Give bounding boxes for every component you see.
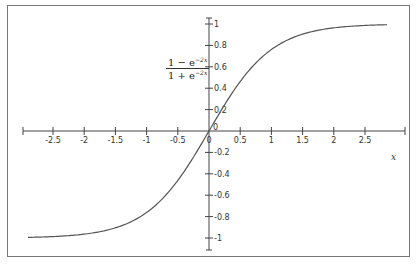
y-tick-label: 0.6 [214, 63, 227, 72]
y-tick-label: 0.2 [214, 106, 227, 115]
tanh-chart: -2.5-2-1.5-1-0.500.511.522.510.80.60.40.… [0, 0, 416, 264]
function-formula: 1 − e−2x 1 + e−2x [166, 56, 209, 82]
y-tick-label: 0 [213, 123, 218, 132]
y-tick-label: -0.4 [214, 170, 230, 179]
formula-denominator: 1 + e−2x [166, 69, 209, 81]
y-tick-label: -0.6 [214, 191, 230, 200]
y-tick-label: 0.8 [214, 41, 227, 50]
x-tick-label: -0.5 [170, 136, 186, 145]
y-tick-label: 1 [214, 20, 219, 29]
x-tick-label: 2.5 [359, 136, 372, 145]
x-tick-label: -1 [143, 136, 151, 145]
x-tick-label: 1 [269, 136, 274, 145]
x-tick-label: -2 [80, 136, 88, 145]
x-tick-label: -1.5 [108, 136, 124, 145]
x-tick-label: 0 [206, 136, 211, 145]
formula-numerator: 1 − e−2x [166, 56, 209, 69]
x-tick-label: 1.5 [296, 136, 309, 145]
y-tick-label: -1 [214, 234, 222, 243]
y-tick-label: -0.2 [214, 148, 230, 157]
x-tick-label: 2 [331, 136, 336, 145]
x-axis-label: x [391, 152, 396, 162]
y-tick-label: 0.4 [214, 84, 227, 93]
x-tick-label: 0.5 [234, 136, 247, 145]
x-tick-label: -2.5 [45, 136, 61, 145]
y-tick-label: -0.8 [214, 213, 230, 222]
